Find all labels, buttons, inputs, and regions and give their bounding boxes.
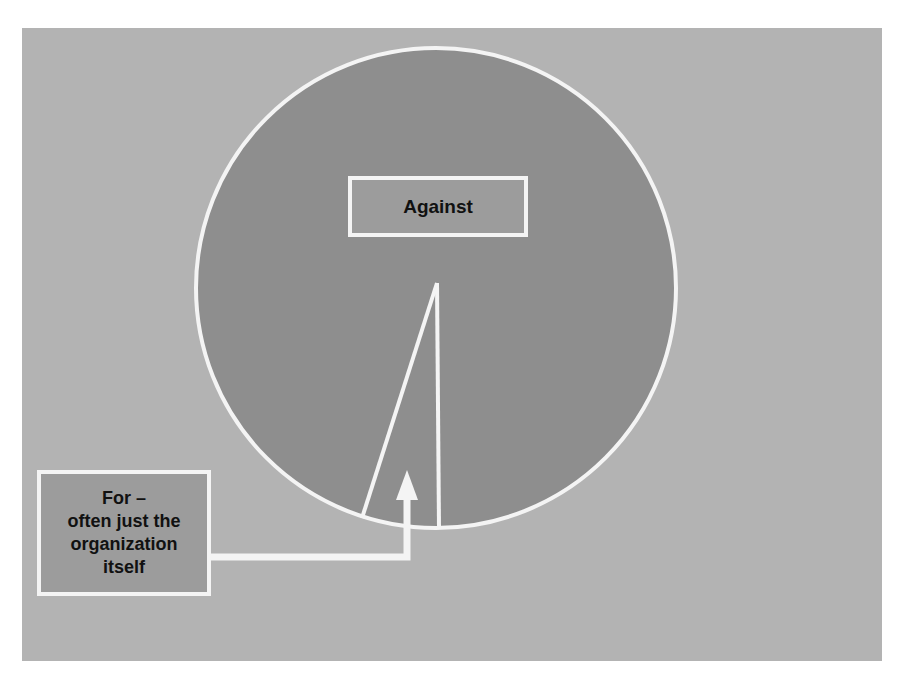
against-label-box: Against [348,176,528,237]
slide: Against For – often just the organizatio… [0,0,903,680]
for-label-line-2: often just the [68,510,181,533]
for-label-line-3: organization [71,533,178,556]
against-label: Against [403,196,473,218]
for-label-box: For – often just the organization itself [37,470,211,596]
for-label-line-1: For – [102,487,146,510]
for-slice-right-edge [437,283,439,528]
for-label-line-4: itself [103,556,145,579]
